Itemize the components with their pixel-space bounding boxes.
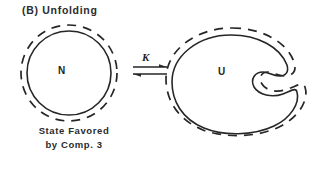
forward-arrow-head: [159, 64, 167, 67]
native-state-circle: [27, 31, 111, 115]
reverse-arrow-head: [133, 74, 141, 77]
caption-line-1: State Favored: [14, 124, 134, 138]
unfolding-figure: (B) Unfolding N U K State Favored by Com…: [0, 0, 315, 170]
unfolded-state-label: U: [218, 66, 225, 77]
equilibrium-constant-label: K: [142, 51, 149, 63]
equilibrium-arrow: [133, 64, 167, 77]
native-state-label: N: [58, 65, 65, 76]
figure-caption: State Favored by Comp. 3: [14, 124, 134, 152]
unfolded-state-blob: [172, 35, 298, 134]
caption-line-2: by Comp. 3: [14, 138, 134, 152]
native-state-dashed-halo: [21, 25, 117, 121]
